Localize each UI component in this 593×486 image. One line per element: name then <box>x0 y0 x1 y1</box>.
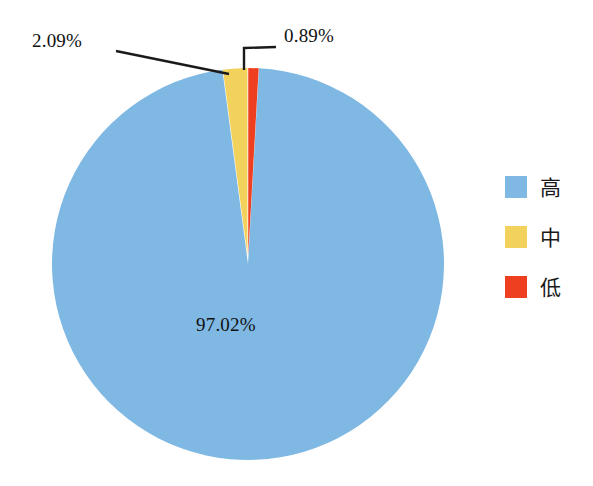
legend-label-low: 低 <box>540 277 561 298</box>
leader-line-mid <box>116 51 229 74</box>
pie-chart-figure: 2.09% 0.89% 97.02% 高 中 低 <box>0 0 593 486</box>
legend-item-high[interactable]: 高 <box>505 162 585 212</box>
data-label-mid: 2.09% <box>32 30 82 52</box>
chart-legend: 高 中 低 <box>505 162 585 312</box>
legend-swatch-low-icon <box>505 276 527 298</box>
legend-swatch-high-icon <box>505 176 527 198</box>
data-label-low: 0.89% <box>284 25 334 47</box>
legend-label-mid: 中 <box>540 227 561 248</box>
pie-slice-high[interactable] <box>52 68 444 460</box>
legend-item-mid[interactable]: 中 <box>505 212 585 262</box>
data-label-high: 97.02% <box>196 314 256 336</box>
leader-line-low <box>244 47 276 70</box>
legend-label-high: 高 <box>540 177 561 198</box>
legend-item-low[interactable]: 低 <box>505 262 585 312</box>
legend-swatch-mid-icon <box>505 226 527 248</box>
